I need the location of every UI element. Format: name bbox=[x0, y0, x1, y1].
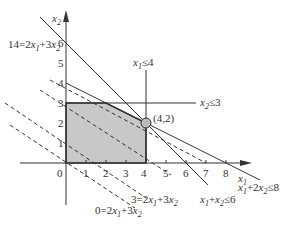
svg-text:7: 7 bbox=[203, 167, 209, 179]
svg-text:5: 5 bbox=[58, 57, 64, 69]
svg-text:5: 5 bbox=[163, 167, 169, 179]
optimal-point bbox=[141, 118, 151, 128]
optimal-point-label: (4,2) bbox=[153, 112, 174, 125]
svg-text:3: 3 bbox=[58, 97, 64, 109]
svg-text:6: 6 bbox=[183, 167, 189, 179]
label-objective-14: 14=2x1+3x2 bbox=[8, 38, 60, 53]
svg-text:4: 4 bbox=[58, 77, 64, 89]
y-axis-arrow-icon bbox=[63, 10, 69, 22]
origin-label: 0 bbox=[57, 167, 63, 179]
y-axis-label: x2 bbox=[51, 12, 61, 27]
label-x1-le-4: x1≤4 bbox=[132, 56, 154, 71]
svg-text:1: 1 bbox=[83, 167, 89, 179]
label-objective-3: 3=2x1+3x2 bbox=[131, 193, 178, 208]
lp-diagram: (4,2) 0 1 2 3 4 5 6 7 8 1 2 3 4 5 6 x2 x… bbox=[0, 0, 295, 227]
x-axis-arrow-icon bbox=[240, 160, 252, 166]
svg-text:8: 8 bbox=[223, 167, 229, 179]
svg-text:1: 1 bbox=[58, 137, 64, 149]
svg-text:2: 2 bbox=[103, 167, 109, 179]
label-x2-le-3: x2≤3 bbox=[199, 96, 221, 111]
y-ticks: 1 2 3 4 5 6 bbox=[58, 37, 64, 149]
label-objective-0: 0=2x1+3x2 bbox=[95, 204, 142, 219]
svg-text:4: 4 bbox=[141, 167, 147, 179]
label-x1-x2-le-6: x1+x2≤6 bbox=[199, 193, 236, 208]
svg-text:3: 3 bbox=[123, 167, 129, 179]
svg-text:2: 2 bbox=[58, 117, 64, 129]
